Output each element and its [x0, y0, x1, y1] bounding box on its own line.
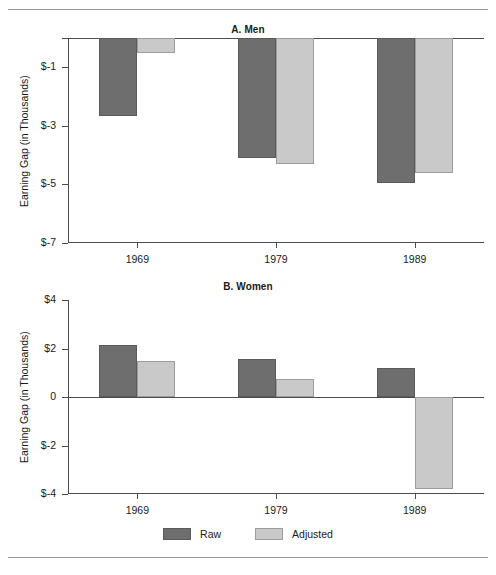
- panel-a-x-tick: [276, 243, 277, 248]
- panel-a-title: A. Men: [0, 24, 496, 35]
- panel-a-y-tick: [62, 67, 68, 68]
- bottom-divider-rule: [8, 557, 488, 558]
- panel-b-x-tick-label: 1989: [385, 504, 445, 516]
- panel-b-y-tick-label: $4: [16, 293, 56, 305]
- panel-a-bar-raw-1979: [238, 38, 276, 158]
- panel-b-bar-raw-1969: [99, 345, 137, 397]
- panel-b-y-tick-label: $-4: [16, 487, 56, 499]
- panel-a-x-tick-label: 1979: [246, 253, 306, 265]
- panel-a-y-tick: [62, 126, 68, 127]
- panel-b-x-tick: [137, 494, 138, 499]
- panel-a-x-tick-label: 1989: [385, 253, 445, 265]
- panel-a-x-tick: [415, 243, 416, 248]
- panel-a-y-tick: [62, 243, 68, 244]
- panel-a-y-tick-label: $-5: [16, 177, 56, 189]
- panel-b-title: B. Women: [0, 281, 496, 292]
- panel-a-x-tick-label: 1969: [107, 253, 167, 265]
- panel-b-x-tick-label: 1979: [246, 504, 306, 516]
- panel-b-bar-raw-1989: [377, 368, 415, 397]
- panel-b-y-tick-label: $2: [16, 342, 56, 354]
- panel-b-y-tick-label: $-2: [16, 439, 56, 451]
- legend-swatch-adjusted-icon: [255, 528, 283, 540]
- panel-b-y-tick: [62, 397, 68, 398]
- top-divider-rule: [8, 9, 488, 10]
- chart-legend: Raw Adjusted: [0, 528, 496, 540]
- panel-b-bar-adjusted-1969: [137, 361, 175, 397]
- panel-b-plot-area: $4$20$-2$-4196919791989: [68, 300, 484, 494]
- panel-b-bar-adjusted-1979: [276, 379, 314, 397]
- panel-a-y-tick: [62, 38, 68, 39]
- panel-b-bar-raw-1979: [238, 359, 276, 397]
- panel-a-y-tick-label: $-3: [16, 119, 56, 131]
- panel-b-y-tick: [62, 494, 68, 495]
- panel-a-bar-adjusted-1969: [137, 38, 175, 53]
- legend-item-adjusted: Adjusted: [255, 528, 333, 540]
- panel-a-bar-adjusted-1979: [276, 38, 314, 164]
- panel-b-y-tick: [62, 300, 68, 301]
- panel-a-y-tick: [62, 184, 68, 185]
- panel-b-y-tick-label: 0: [16, 390, 56, 402]
- panel-b-bar-adjusted-1989: [415, 397, 453, 489]
- panel-men: A. Men Earning Gap (in Thousands) $-1$-3…: [0, 24, 496, 276]
- legend-swatch-raw-icon: [163, 528, 191, 540]
- figure: A. Men Earning Gap (in Thousands) $-1$-3…: [0, 0, 496, 575]
- panel-b-y-tick: [62, 349, 68, 350]
- panel-b-x-tick: [276, 494, 277, 499]
- panel-a-y-axis-line: [68, 38, 69, 243]
- panel-a-y-tick-label: $-7: [16, 236, 56, 248]
- panel-a-plot-area: $-1$-3$-5$-7196919791989: [68, 38, 484, 243]
- panel-b-x-tick: [415, 494, 416, 499]
- panel-b-x-tick-label: 1969: [107, 504, 167, 516]
- panel-women: B. Women Earning Gap (in Thousands) $4$2…: [0, 281, 496, 533]
- panel-b-y-tick: [62, 446, 68, 447]
- panel-a-y-tick-label: $-1: [16, 60, 56, 72]
- panel-a-x-tick: [137, 243, 138, 248]
- legend-label-raw: Raw: [200, 528, 221, 540]
- legend-label-adjusted: Adjusted: [292, 528, 333, 540]
- legend-item-raw: Raw: [163, 528, 221, 540]
- panel-a-bar-raw-1969: [99, 38, 137, 116]
- panel-a-bar-raw-1989: [377, 38, 415, 183]
- panel-a-bar-adjusted-1989: [415, 38, 453, 173]
